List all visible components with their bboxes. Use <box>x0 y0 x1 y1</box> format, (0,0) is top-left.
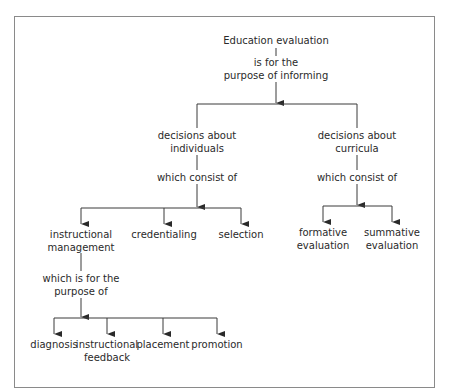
node-instructional-feedback: instructional feedback <box>76 339 138 364</box>
link-text: which consist of <box>157 172 237 185</box>
node-decisions-about-curricula: decisions about curricula <box>318 130 396 155</box>
link-which-is-for-purpose-of: which is for the purpose of <box>43 273 120 298</box>
node-text: evaluation <box>297 240 350 253</box>
node-text: evaluation <box>364 240 420 253</box>
link-is-for-purpose-of-informing: is for the purpose of informing <box>224 57 329 82</box>
node-education-evaluation: Education evaluation <box>223 35 329 48</box>
node-selection: selection <box>219 229 264 242</box>
link-text: which is for the <box>43 273 120 286</box>
node-instructional-management: instructional management <box>48 229 115 254</box>
node-text: placement <box>136 339 189 352</box>
node-text: decisions about <box>158 130 236 143</box>
node-credentialing: credentialing <box>131 229 196 242</box>
node-promotion: promotion <box>191 339 242 352</box>
node-text: formative <box>297 227 350 240</box>
node-text: selection <box>219 229 264 242</box>
link-text: is for the <box>224 57 329 70</box>
node-decisions-about-individuals: decisions about individuals <box>158 130 236 155</box>
node-text: curricula <box>318 143 396 156</box>
node-text: individuals <box>158 143 236 156</box>
node-summative-evaluation: summative evaluation <box>364 227 420 252</box>
node-text: management <box>48 242 115 255</box>
node-text: summative <box>364 227 420 240</box>
node-placement: placement <box>136 339 189 352</box>
link-text: purpose of <box>43 286 120 299</box>
node-text: decisions about <box>318 130 396 143</box>
link-text: which consist of <box>317 172 397 185</box>
node-text: diagnosis <box>30 339 77 352</box>
node-diagnosis: diagnosis <box>30 339 77 352</box>
node-text: promotion <box>191 339 242 352</box>
link-which-consist-of-left: which consist of <box>157 172 237 185</box>
link-text: purpose of informing <box>224 70 329 83</box>
node-text: feedback <box>76 352 138 365</box>
node-text: instructional <box>76 339 138 352</box>
link-which-consist-of-right: which consist of <box>317 172 397 185</box>
node-formative-evaluation: formative evaluation <box>297 227 350 252</box>
node-text: Education evaluation <box>223 35 329 48</box>
node-text: credentialing <box>131 229 196 242</box>
node-text: instructional <box>48 229 115 242</box>
